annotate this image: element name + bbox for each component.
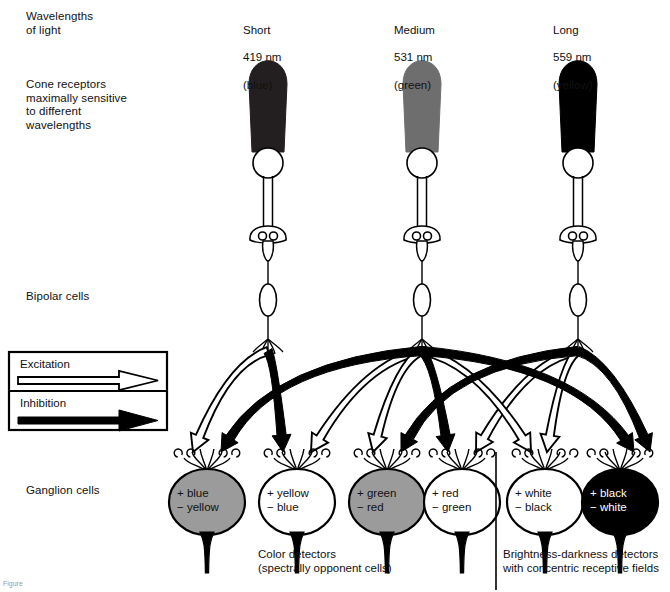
bipolar-cell-1 xyxy=(260,284,277,316)
bipolar-cell-2 xyxy=(414,284,431,316)
medium-cone-vesicle-left xyxy=(413,232,421,240)
caption-color-detectors: Color detectors (spectrally opponent cel… xyxy=(258,548,392,576)
row-label-wavelengths: Wavelengths of light xyxy=(26,10,93,37)
ganglion-green-red-soma[interactable] xyxy=(349,469,425,535)
short-cone-teardrop xyxy=(263,241,274,261)
bipolar-cell-3 xyxy=(570,284,587,316)
ganglion-red-green-dendrites xyxy=(429,449,495,471)
medium-cone-teardrop xyxy=(417,241,428,261)
long-cone-vesicle-right xyxy=(580,232,588,240)
ganglion-green-red-dendrites xyxy=(354,449,420,471)
short-cone-vesicle-left xyxy=(259,232,267,240)
ganglion-red-green-axon xyxy=(455,532,469,573)
cone-color-long: (yellow) xyxy=(553,79,593,93)
cone-wavelength-short: 419 nm xyxy=(243,51,281,65)
short-cone-vesicle-right xyxy=(270,232,278,240)
cone-size-short: Short xyxy=(243,24,281,38)
ganglion-black-white-dendrites xyxy=(587,449,653,471)
cone-color-short: (blue) xyxy=(243,79,281,93)
cone-wavelength-medium: 531 nm xyxy=(394,51,435,65)
cone-wavelength-long: 559 nm xyxy=(553,51,593,65)
row-label-ganglion: Ganglion cells xyxy=(26,484,100,498)
legend-label-excitation: Excitation xyxy=(20,358,70,371)
cone-size-long: Long xyxy=(553,24,593,38)
short-cone-soma xyxy=(253,148,283,178)
medium-cone-soma xyxy=(407,148,437,178)
ganglion-yellow-blue-dendrites xyxy=(264,449,330,471)
cone-header-short: Short 419 nm (blue) xyxy=(243,10,281,107)
cone-color-medium: (green) xyxy=(394,79,435,93)
caption-brightness-detectors: Brightness-darkness detectors with conce… xyxy=(503,548,659,576)
row-label-bipolar: Bipolar cells xyxy=(26,290,89,304)
row-label-cones: Cone receptors maximally sensitive to di… xyxy=(26,78,127,132)
ganglion-white-black-soma[interactable] xyxy=(507,469,583,535)
long-cone-soma xyxy=(563,148,593,178)
ganglion-blue-yellow-axon xyxy=(200,532,214,573)
cone-header-medium: Medium 531 nm (green) xyxy=(394,10,435,107)
medium-cone-vesicle-right xyxy=(424,232,432,240)
ganglion-white-black-dendrites xyxy=(512,449,578,471)
ganglion-red-green-soma[interactable] xyxy=(424,469,500,535)
ganglion-black-white-soma[interactable] xyxy=(582,469,658,535)
ganglion-blue-yellow-soma[interactable] xyxy=(169,469,245,535)
long-cone-vesicle-left xyxy=(569,232,577,240)
color-vision-diagram: Wavelengths of light Cone receptors maxi… xyxy=(0,0,670,592)
ganglion-yellow-blue-soma[interactable] xyxy=(259,469,335,535)
ganglion-blue-yellow-dendrites xyxy=(174,449,240,471)
ganglion-blue-yellow[interactable] xyxy=(169,449,245,573)
legend-label-inhibition: Inhibition xyxy=(20,397,66,410)
ganglion-red-green[interactable] xyxy=(424,449,500,573)
cone-size-medium: Medium xyxy=(394,24,435,38)
cone-header-long: Long 559 nm (yellow) xyxy=(553,10,593,107)
long-cone-teardrop xyxy=(573,241,584,261)
figure-number: Figure xyxy=(3,580,23,588)
connection-arrows-group xyxy=(191,346,653,452)
